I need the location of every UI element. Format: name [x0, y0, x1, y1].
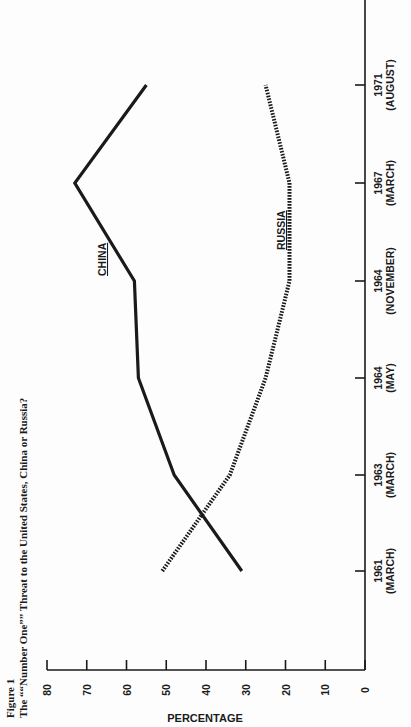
category-month-label: (MARCH): [384, 160, 396, 206]
china-line: [75, 85, 242, 571]
category-axis: 1961(MARCH)1963(MARCH)1964(MAY)1964(NOVE…: [355, 0, 396, 670]
category-month-label: (NOVEMBER): [384, 247, 396, 315]
value-axis: 01020304050607080 PERCENTAGE: [41, 660, 371, 724]
chart: Figure 1 The ““Number One”” Threat to th…: [0, 0, 411, 727]
value-tick-label: 10: [319, 684, 331, 696]
category-month-label: (MAY): [384, 363, 396, 392]
category-month-label: (AUGUST): [384, 59, 396, 110]
category-year-label: 1961: [372, 559, 384, 583]
category-month-label: (MARCH): [384, 452, 396, 498]
category-year-label: 1967: [372, 171, 384, 195]
category-year-label: 1971: [372, 73, 384, 97]
russia-line: [162, 85, 289, 571]
category-year-label: 1964: [372, 366, 384, 390]
value-tick-label: 0: [359, 687, 371, 693]
value-tick-label: 40: [200, 684, 212, 696]
figure-title: The ““Number One”” Threat to the United …: [17, 398, 29, 718]
value-tick-label: 50: [160, 684, 172, 696]
value-tick-label: 30: [240, 684, 252, 696]
category-year-label: 1964: [372, 269, 384, 293]
value-tick-label: 70: [81, 684, 93, 696]
category-month-label: (MARCH): [384, 548, 396, 594]
value-tick-label: 80: [41, 684, 53, 696]
russia-label: RUSSIA: [275, 210, 287, 250]
value-tick-label: 60: [121, 684, 133, 696]
series-layer: [75, 85, 290, 571]
value-tick-label: 20: [280, 684, 292, 696]
china-label: CHINA: [96, 242, 108, 276]
figure-label: Figure 1: [4, 679, 16, 718]
category-year-label: 1963: [372, 463, 384, 487]
value-axis-title: PERCENTAGE: [167, 712, 243, 724]
